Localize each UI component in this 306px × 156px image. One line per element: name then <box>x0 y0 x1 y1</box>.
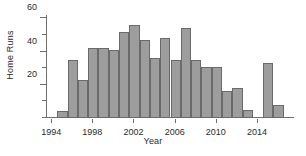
bar-2003 <box>140 40 150 118</box>
x-tick-label-1998: 1998 <box>75 127 109 137</box>
bar-2010 <box>212 67 222 119</box>
x-tick-label-2006: 2006 <box>158 127 192 137</box>
y-tick-50 <box>42 34 46 35</box>
x-tick-2002 <box>133 119 134 123</box>
bar-2007 <box>181 28 191 118</box>
x-tick-1994 <box>51 119 52 123</box>
bar-2006 <box>171 60 181 118</box>
bar-2004 <box>150 58 160 118</box>
y-tick-30 <box>42 67 46 68</box>
x-tick-2014 <box>257 119 258 123</box>
bar-2008 <box>191 60 201 118</box>
bar-2005 <box>160 38 170 118</box>
y-tick-0 <box>42 117 46 118</box>
bar-1999 <box>98 48 108 118</box>
bar-2012 <box>232 88 242 118</box>
bar-1997 <box>78 80 88 118</box>
bar-2000 <box>109 50 119 118</box>
home-runs-histogram: Home Runs Year 604020 199419982002200620… <box>0 0 306 156</box>
bar-2013 <box>243 110 253 118</box>
bar-2009 <box>201 67 211 119</box>
bar-1995 <box>57 111 67 118</box>
y-tick-label-40: 40 <box>15 36 37 46</box>
bar-1998 <box>88 48 98 118</box>
y-tick-20 <box>40 84 46 85</box>
x-tick-1998 <box>92 119 93 123</box>
bar-2002 <box>129 25 139 118</box>
bar-2011 <box>222 91 232 118</box>
y-tick-40 <box>40 51 46 52</box>
bar-2016 <box>273 105 283 118</box>
y-tick-10 <box>42 100 46 101</box>
bar-2015 <box>263 63 273 118</box>
x-tick-label-2014: 2014 <box>240 127 274 137</box>
x-tick-2006 <box>175 119 176 123</box>
x-axis-title: Year <box>0 136 306 146</box>
x-tick-label-2002: 2002 <box>116 127 150 137</box>
y-axis-title: Home Runs <box>5 23 15 87</box>
plot-area: 604020 199419982002200620102014 <box>46 8 296 120</box>
y-tick-60 <box>40 17 46 18</box>
y-tick-label-60: 60 <box>15 2 37 12</box>
bar-1996 <box>68 60 78 118</box>
x-tick-2010 <box>216 119 217 123</box>
bar-2001 <box>119 32 129 118</box>
bar-series <box>47 15 296 118</box>
x-tick-label-1994: 1994 <box>34 127 68 137</box>
y-tick-label-20: 20 <box>15 69 37 79</box>
x-tick-label-2010: 2010 <box>199 127 233 137</box>
